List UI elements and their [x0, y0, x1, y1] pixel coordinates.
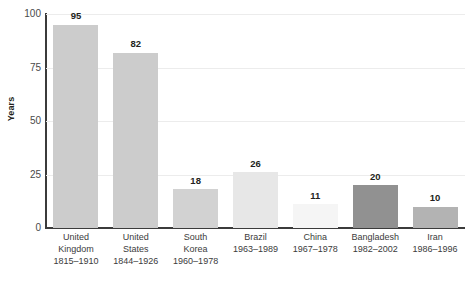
- x-axis-category-label: Brazil1963–1989: [226, 232, 286, 256]
- bar-value-label: 10: [413, 193, 458, 203]
- x-axis-period-label: 1960–1978: [166, 256, 226, 268]
- y-axis-tick-label: 75: [7, 63, 41, 73]
- y-axis-tick-label: 0: [7, 223, 41, 233]
- x-axis-period-label: 1982–2002: [345, 244, 405, 256]
- y-axis-tick-label: 100: [7, 9, 41, 19]
- bar-group[interactable]: 95: [53, 14, 98, 228]
- bar[interactable]: [353, 185, 398, 228]
- bar-group[interactable]: 20: [353, 14, 398, 228]
- x-axis-category-name: States: [106, 244, 166, 256]
- x-axis-category-name: United: [106, 232, 166, 244]
- y-axis-title: Years: [6, 84, 16, 134]
- x-axis-category-label: SouthKorea1960–1978: [166, 232, 226, 268]
- bar-group[interactable]: 10: [413, 14, 458, 228]
- bar[interactable]: [113, 53, 158, 228]
- y-axis-tick-label: 50: [7, 116, 41, 126]
- bar-group[interactable]: 82: [113, 14, 158, 228]
- x-axis-category-name: Iran: [405, 232, 465, 244]
- bar[interactable]: [413, 207, 458, 228]
- bar-group[interactable]: 26: [233, 14, 278, 228]
- x-axis-period-label: 1815–1910: [46, 256, 106, 268]
- x-axis-category-label: UnitedStates1844–1926: [106, 232, 166, 268]
- bar-chart: Years 95821826112010 0255075100UnitedKin…: [0, 0, 466, 284]
- bar-value-label: 11: [293, 191, 338, 201]
- bar-value-label: 18: [173, 176, 218, 186]
- bar[interactable]: [173, 189, 218, 228]
- x-axis-period-label: 1986–1996: [405, 244, 465, 256]
- x-axis-category-name: South: [166, 232, 226, 244]
- bar-group[interactable]: 18: [173, 14, 218, 228]
- x-axis-category-label: UnitedKingdom1815–1910: [46, 232, 106, 268]
- x-axis-period-label: 1963–1989: [226, 244, 286, 256]
- bar-value-label: 20: [353, 172, 398, 182]
- x-axis-category-name: United: [46, 232, 106, 244]
- bar-group[interactable]: 11: [293, 14, 338, 228]
- bar-value-label: 82: [113, 39, 158, 49]
- x-axis-category-name: Bangladesh: [345, 232, 405, 244]
- x-axis-category-label: Bangladesh1982–2002: [345, 232, 405, 256]
- x-axis-category-name: China: [285, 232, 345, 244]
- y-axis-tick-label: 25: [7, 170, 41, 180]
- bar-value-label: 95: [53, 11, 98, 21]
- bar[interactable]: [233, 172, 278, 228]
- bar[interactable]: [293, 204, 338, 228]
- x-axis-period-label: 1844–1926: [106, 256, 166, 268]
- x-axis-category-label: Iran1986–1996: [405, 232, 465, 256]
- x-axis-category-name: Korea: [166, 244, 226, 256]
- bar[interactable]: [53, 25, 98, 228]
- x-axis-category-name: Brazil: [226, 232, 286, 244]
- x-axis-category-label: China1967–1978: [285, 232, 345, 256]
- x-axis-period-label: 1967–1978: [285, 244, 345, 256]
- x-axis-category-name: Kingdom: [46, 244, 106, 256]
- bar-value-label: 26: [233, 159, 278, 169]
- plot-area: 95821826112010: [46, 14, 465, 228]
